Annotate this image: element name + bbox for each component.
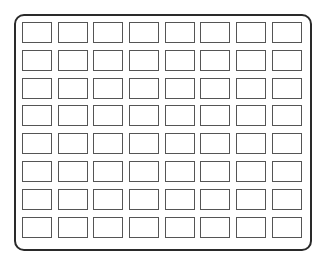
grid-cell-r3-c7 <box>236 78 266 99</box>
grid-cell-r8-c2 <box>58 217 88 238</box>
grid-cell-r3-c6 <box>200 78 230 99</box>
grid-cell-r2-c6 <box>200 50 230 71</box>
grid-cell-r2-c8 <box>272 50 302 71</box>
grid-cell-r5-c3 <box>93 133 123 154</box>
grid-cell-r7-c8 <box>272 189 302 210</box>
grid-cell-r8-c8 <box>272 217 302 238</box>
grid-cell-r4-c5 <box>165 105 195 126</box>
grid-cell-r6-c6 <box>200 161 230 182</box>
grid-cell-r1-c5 <box>165 22 195 43</box>
grid-cell-r5-c1 <box>22 133 52 154</box>
grid-cell-r2-c7 <box>236 50 266 71</box>
grid-cell-r6-c8 <box>272 161 302 182</box>
grid-cell-r8-c7 <box>236 217 266 238</box>
grid-cell-r3-c1 <box>22 78 52 99</box>
cell-grid <box>22 22 302 238</box>
grid-cell-r7-c1 <box>22 189 52 210</box>
grid-cell-r6-c4 <box>129 161 159 182</box>
grid-cell-r6-c1 <box>22 161 52 182</box>
grid-cell-r1-c8 <box>272 22 302 43</box>
grid-cell-r8-c3 <box>93 217 123 238</box>
grid-cell-r1-c6 <box>200 22 230 43</box>
grid-cell-r4-c8 <box>272 105 302 126</box>
grid-cell-r7-c2 <box>58 189 88 210</box>
grid-cell-r1-c1 <box>22 22 52 43</box>
grid-cell-r5-c2 <box>58 133 88 154</box>
grid-cell-r3-c3 <box>93 78 123 99</box>
grid-cell-r6-c3 <box>93 161 123 182</box>
grid-cell-r4-c4 <box>129 105 159 126</box>
grid-cell-r3-c8 <box>272 78 302 99</box>
grid-cell-r2-c1 <box>22 50 52 71</box>
grid-cell-r4-c1 <box>22 105 52 126</box>
grid-cell-r7-c4 <box>129 189 159 210</box>
grid-cell-r5-c8 <box>272 133 302 154</box>
grid-cell-r3-c4 <box>129 78 159 99</box>
grid-cell-r2-c3 <box>93 50 123 71</box>
grid-cell-r1-c7 <box>236 22 266 43</box>
grid-cell-r5-c7 <box>236 133 266 154</box>
grid-cell-r8-c4 <box>129 217 159 238</box>
grid-cell-r3-c5 <box>165 78 195 99</box>
grid-cell-r1-c2 <box>58 22 88 43</box>
grid-cell-r8-c1 <box>22 217 52 238</box>
grid-cell-r6-c5 <box>165 161 195 182</box>
grid-cell-r8-c5 <box>165 217 195 238</box>
grid-cell-r4-c2 <box>58 105 88 126</box>
grid-cell-r1-c3 <box>93 22 123 43</box>
grid-cell-r7-c3 <box>93 189 123 210</box>
grid-cell-r5-c5 <box>165 133 195 154</box>
grid-cell-r4-c3 <box>93 105 123 126</box>
grid-cell-r7-c5 <box>165 189 195 210</box>
grid-cell-r1-c4 <box>129 22 159 43</box>
grid-cell-r4-c6 <box>200 105 230 126</box>
grid-cell-r7-c6 <box>200 189 230 210</box>
grid-cell-r4-c7 <box>236 105 266 126</box>
grid-cell-r6-c7 <box>236 161 266 182</box>
grid-cell-r8-c6 <box>200 217 230 238</box>
grid-cell-r5-c4 <box>129 133 159 154</box>
grid-cell-r2-c4 <box>129 50 159 71</box>
grid-cell-r3-c2 <box>58 78 88 99</box>
grid-cell-r2-c2 <box>58 50 88 71</box>
grid-cell-r2-c5 <box>165 50 195 71</box>
grid-cell-r6-c2 <box>58 161 88 182</box>
grid-cell-r5-c6 <box>200 133 230 154</box>
grid-cell-r7-c7 <box>236 189 266 210</box>
